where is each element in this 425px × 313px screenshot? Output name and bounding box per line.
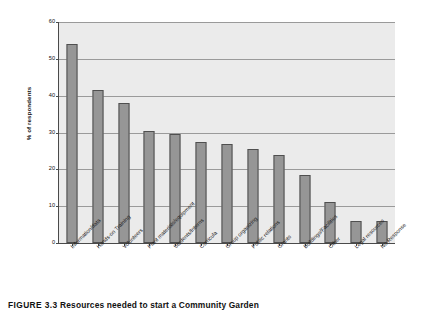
bar-slot — [137, 22, 163, 243]
y-axis-title: % of respondents — [25, 59, 32, 169]
x-axis-labels-group: Information/dataHands-on TrainingVolunte… — [58, 246, 394, 298]
bar-slot — [343, 22, 369, 243]
figure-container: % of respondents 0102030405060 Informati… — [0, 0, 425, 313]
y-tick-label: 0 — [52, 240, 55, 246]
bar — [221, 144, 232, 243]
y-tick-mark — [56, 243, 59, 244]
bar — [144, 131, 155, 243]
bar-slot — [214, 22, 240, 243]
figure-number: FIGURE 3.3 — [8, 300, 58, 310]
bar-slot — [369, 22, 395, 243]
y-tick-label: 40 — [49, 93, 55, 99]
bar-chart: % of respondents 0102030405060 Informati… — [12, 6, 412, 292]
bar-slot — [292, 22, 318, 243]
bars-group — [59, 22, 395, 243]
figure-caption: FIGURE 3.3 Resources needed to start a C… — [8, 300, 259, 310]
y-tick-label: 10 — [49, 203, 55, 209]
bar — [299, 175, 310, 243]
bar-slot — [111, 22, 137, 243]
bar-slot — [266, 22, 292, 243]
y-tick-label: 20 — [49, 167, 55, 173]
y-tick-label: 30 — [49, 130, 55, 136]
plot-area: 0102030405060 — [58, 22, 395, 244]
bar-slot — [317, 22, 343, 243]
bar-slot — [59, 22, 85, 243]
bar — [66, 44, 77, 243]
figure-caption-text: Resources needed to start a Community Ga… — [60, 300, 259, 310]
bar-slot — [240, 22, 266, 243]
bar-slot — [188, 22, 214, 243]
bar-slot — [85, 22, 111, 243]
y-tick-label: 50 — [49, 56, 55, 62]
y-tick-label: 60 — [49, 19, 55, 25]
